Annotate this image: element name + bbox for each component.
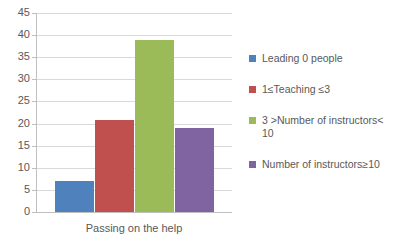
legend-item-4[interactable]: Number of instructors≥10 [249,158,395,171]
legend-item-2[interactable]: 1≤Teaching ≤3 [249,83,395,96]
y-tick-mark-20 [32,124,36,125]
chart-legend: Leading 0 people1≤Teaching ≤33 >Number o… [249,52,395,189]
legend-swatch-icon-2 [249,86,256,93]
y-tick-label-0: 0 [2,206,30,217]
y-tick-label-40: 40 [2,29,30,40]
y-tick-label-45: 45 [2,7,30,18]
legend-label-1: Leading 0 people [262,52,343,65]
legend-label-3: 3 >Number of instructors< 10 [262,114,383,140]
y-axis-tick-labels: 454035302520151050 [0,0,30,245]
legend-item-3[interactable]: 3 >Number of instructors< 10 [249,114,395,140]
y-tick-label-20: 20 [2,118,30,129]
y-tick-mark-15 [32,146,36,147]
y-tick-mark-0 [32,212,36,213]
legend-label-2: 1≤Teaching ≤3 [262,83,330,96]
y-tick-label-15: 15 [2,140,30,151]
bar-series-3 [135,40,174,212]
bar-chart: 454035302520151050 Passing on the help L… [0,0,398,245]
y-tick-mark-40 [32,35,36,36]
y-tick-label-10: 10 [2,162,30,173]
bar-series-4 [175,128,214,212]
x-axis-baseline [36,212,232,213]
y-tick-mark-30 [32,79,36,80]
y-tick-mark-35 [32,57,36,58]
legend-item-1[interactable]: Leading 0 people [249,52,395,65]
bar-series-1 [55,181,94,212]
legend-swatch-icon-1 [249,55,256,62]
bar-series-2 [95,120,134,212]
y-tick-mark-45 [32,13,36,14]
y-tick-label-25: 25 [2,95,30,106]
legend-swatch-icon-4 [249,161,256,168]
legend-label-4: Number of instructors≥10 [262,158,380,171]
y-tick-label-30: 30 [2,73,30,84]
y-tick-label-5: 5 [2,184,30,195]
y-tick-label-35: 35 [2,51,30,62]
legend-swatch-icon-3 [249,117,256,124]
x-axis-label: Passing on the help [36,222,232,235]
y-tick-mark-10 [32,168,36,169]
y-tick-mark-25 [32,101,36,102]
bars-layer [36,13,232,212]
y-tick-mark-5 [32,190,36,191]
